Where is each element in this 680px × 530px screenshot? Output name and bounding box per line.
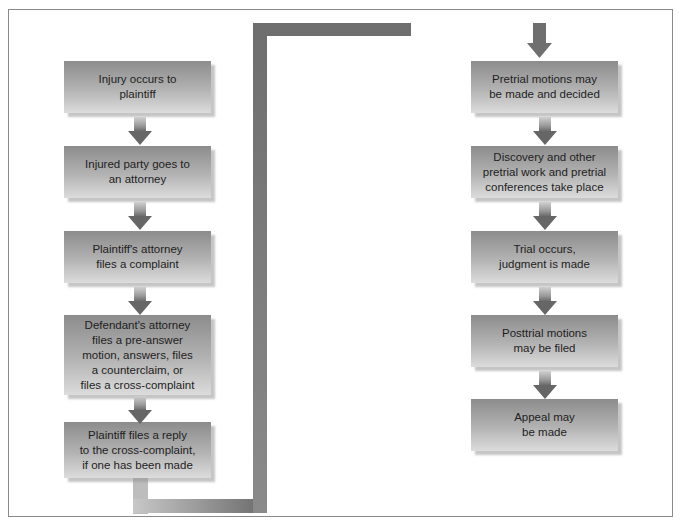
step-text: Posttrial motions [502, 326, 587, 341]
step-text: Plaintiff files a reply [80, 428, 196, 443]
flow-step-injury-occurs: Injury occurs toplaintiff [64, 61, 211, 113]
flow-step-discovery: Discovery and other pretrial work and pr… [471, 146, 618, 198]
flow-step-files-complaint: Plaintiff's attorneyfiles a complaint [64, 231, 211, 283]
step-text: judgment is made [499, 257, 590, 272]
flow-step-appeal: Appeal maybe made [471, 399, 618, 451]
down-arrow-icon [125, 117, 155, 145]
flow-step-defendant-response: Defendant's attorney files a pre-answer … [64, 315, 211, 395]
step-text: an attorney [85, 172, 190, 187]
step-text: be made and decided [489, 87, 600, 102]
step-text: files a complaint [92, 257, 182, 272]
step-text: Trial occurs, [499, 242, 590, 257]
flow-step-posttrial-motions: Posttrial motionsmay be filed [471, 315, 618, 367]
step-text: conferences take place [483, 180, 606, 195]
step-text: Appeal may [514, 410, 575, 425]
down-arrow-icon [530, 117, 560, 145]
step-text: Injured party goes to [85, 157, 190, 172]
flow-step-plaintiff-reply: Plaintiff files a reply to the cross-com… [64, 422, 211, 478]
down-arrow-icon [125, 202, 155, 230]
step-text: files a pre-answer [81, 333, 195, 348]
down-arrow-icon [530, 371, 560, 399]
down-arrow-icon [530, 202, 560, 230]
step-text: Injury occurs to [99, 72, 177, 87]
step-text: motion, answers, files [81, 348, 195, 363]
down-arrow-icon [530, 287, 560, 315]
flow-step-goes-to-attorney: Injured party goes toan attorney [64, 146, 211, 198]
step-text: if one has been made [80, 458, 196, 473]
step-text: Plaintiff's attorney [92, 242, 182, 257]
step-text: plaintiff [99, 87, 177, 102]
flow-step-pretrial-motions: Pretrial motions maybe made and decided [471, 61, 618, 113]
step-text: Defendant's attorney [81, 318, 195, 333]
step-text: pretrial work and pretrial [483, 165, 606, 180]
step-text: Pretrial motions may [489, 72, 600, 87]
down-arrow-icon [125, 287, 155, 315]
step-text: may be filed [502, 341, 587, 356]
step-text: files a cross-complaint [81, 378, 195, 393]
step-text: to the cross-complaint, [80, 443, 196, 458]
step-text: Discovery and other [483, 150, 606, 165]
flow-step-trial: Trial occurs,judgment is made [471, 231, 618, 283]
step-text: a counterclaim, or [81, 363, 195, 378]
down-arrow-icon [125, 396, 155, 424]
step-text: be made [514, 425, 575, 440]
